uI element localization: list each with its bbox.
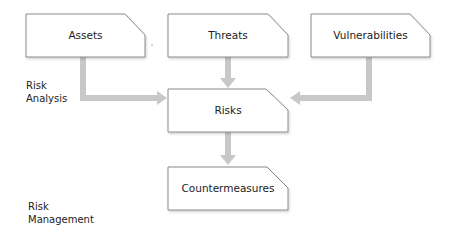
- assets-label: Assets: [26, 30, 145, 41]
- vulnerabilities-label: Vulnerabilities: [311, 30, 430, 41]
- risks-label: Risks: [168, 105, 288, 116]
- threats-label: Threats: [168, 30, 288, 41]
- arrow-assets-to-risks: [80, 57, 167, 105]
- risk-management-label: Risk Management: [28, 200, 94, 226]
- risk-analysis-line2: Analysis: [26, 92, 67, 105]
- risk-management-line2: Management: [28, 213, 94, 226]
- risk-management-line1: Risk: [28, 200, 94, 213]
- arrow-vulnerabilities-to-risks: [290, 57, 372, 105]
- risk-diagram: Assets Threats Vulnerabilities Risks Cou…: [0, 0, 459, 237]
- arrow-threats-to-risks: [220, 57, 236, 88]
- risk-analysis-label: Risk Analysis: [26, 79, 67, 105]
- stray-dot: [151, 44, 153, 46]
- risk-analysis-line1: Risk: [26, 79, 67, 92]
- countermeasures-label: Countermeasures: [168, 183, 288, 194]
- arrow-risks-to-countermeasures: [220, 132, 236, 165]
